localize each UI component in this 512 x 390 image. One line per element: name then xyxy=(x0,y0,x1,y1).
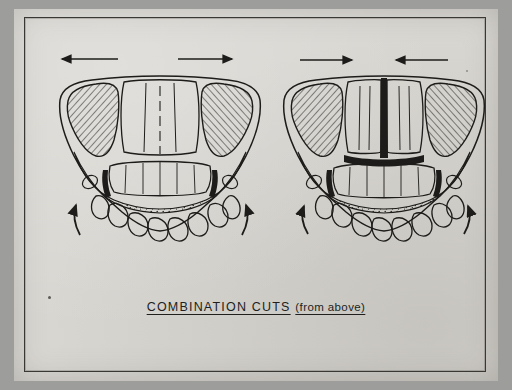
combination-cut-right xyxy=(284,60,485,241)
caption-main-text: COMBINATION CUTS xyxy=(147,300,291,314)
right-anterior-striations xyxy=(349,164,419,197)
right-hatched-shelf xyxy=(201,83,252,156)
caption-sub-text: (from above) xyxy=(295,301,365,313)
screenshot-root: COMBINATION CUTS (from above) xyxy=(0,0,512,390)
right-central-palate-left-half xyxy=(345,80,381,154)
figure-caption: COMBINATION CUTS (from above) xyxy=(0,300,512,314)
left-anterior-striations xyxy=(125,162,195,195)
midline-sagittal-cut xyxy=(380,78,388,158)
combination-cut-left xyxy=(60,59,261,241)
left-hatched-shelf xyxy=(67,83,118,156)
right-panel-left-hatched-shelf xyxy=(291,83,342,156)
right-central-palate-right-half xyxy=(387,80,423,154)
combination-cuts-diagram xyxy=(0,0,512,390)
right-panel-right-hatched-shelf xyxy=(425,83,476,156)
